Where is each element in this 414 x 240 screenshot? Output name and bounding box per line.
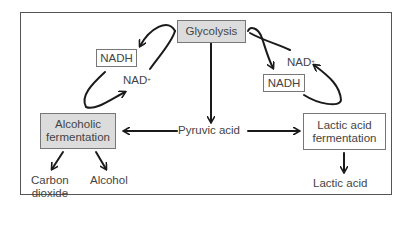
- nadh-left-box: NADH: [96, 49, 137, 67]
- alcoholic-line2: fermentation: [46, 131, 110, 144]
- arrow-lactic-to-nad-right: [304, 65, 341, 104]
- lactic-acid-label: Lactic acid: [313, 177, 367, 190]
- nadh-right-label: NADH: [268, 77, 301, 90]
- nadh-right-box: NADH: [263, 74, 305, 92]
- lactic-line2: fermentation: [313, 132, 377, 145]
- arrow-glycolysis-to-nad-right: [250, 33, 290, 50]
- arrow-to-alcohol: [96, 152, 106, 169]
- nad-left-label: NAD+: [123, 74, 151, 87]
- alcoholic-fermentation-box: Alcoholic fermentation: [40, 113, 116, 149]
- lactic-fermentation-box: Lactic acid fermentation: [303, 113, 386, 150]
- lactic-line1: Lactic acid: [317, 119, 371, 132]
- arrow-nad-to-glycolysis-left: [150, 31, 175, 69]
- nad-right-label: NAD+: [287, 56, 315, 69]
- arrow-to-carbon-dioxide: [52, 152, 63, 169]
- arrow-nadh-to-alcoholic: [84, 72, 125, 108]
- alcoholic-line1: Alcoholic: [55, 118, 101, 131]
- glycolysis-label: Glycolysis: [186, 25, 238, 38]
- alcohol-label: Alcohol: [90, 174, 128, 187]
- glycolysis-box: Glycolysis: [177, 20, 246, 43]
- pyruvic-acid-label: Pyruvic acid: [178, 124, 240, 137]
- nadh-left-label: NADH: [100, 52, 133, 65]
- carbon-dioxide-label: Carbon dioxide: [31, 174, 69, 200]
